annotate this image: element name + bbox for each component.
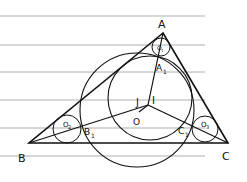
cevians xyxy=(29,33,228,143)
label-c1: C xyxy=(178,126,184,136)
geometry-diagram: A B C A 1 B 1 C 1 J I O O 1 O 2 O 3 xyxy=(0,0,247,182)
big-circle xyxy=(80,53,194,167)
label-o1-sub: 1 xyxy=(161,48,164,53)
label-a: A xyxy=(158,18,166,31)
label-b: B xyxy=(18,152,26,165)
label-i: I xyxy=(152,95,155,106)
label-o3-sub: 3 xyxy=(206,124,209,130)
triangle-abc xyxy=(29,33,228,143)
label-a1: A xyxy=(156,63,163,73)
circle-o2 xyxy=(53,115,81,143)
circle-o3 xyxy=(192,116,218,142)
label-a1-sub: 1 xyxy=(163,68,167,75)
paper-lines xyxy=(0,16,205,156)
label-o2-sub: 2 xyxy=(68,124,71,130)
label-o: O xyxy=(133,117,140,127)
label-c1-sub: 1 xyxy=(185,131,189,138)
label-j: J xyxy=(135,97,139,108)
label-c: C xyxy=(222,150,230,163)
diagram-svg: A B C A 1 B 1 C 1 J I O O 1 O 2 O 3 xyxy=(0,0,247,182)
label-b1: B xyxy=(84,127,90,137)
line-b-i xyxy=(29,105,148,143)
label-b1-sub: 1 xyxy=(91,132,95,139)
